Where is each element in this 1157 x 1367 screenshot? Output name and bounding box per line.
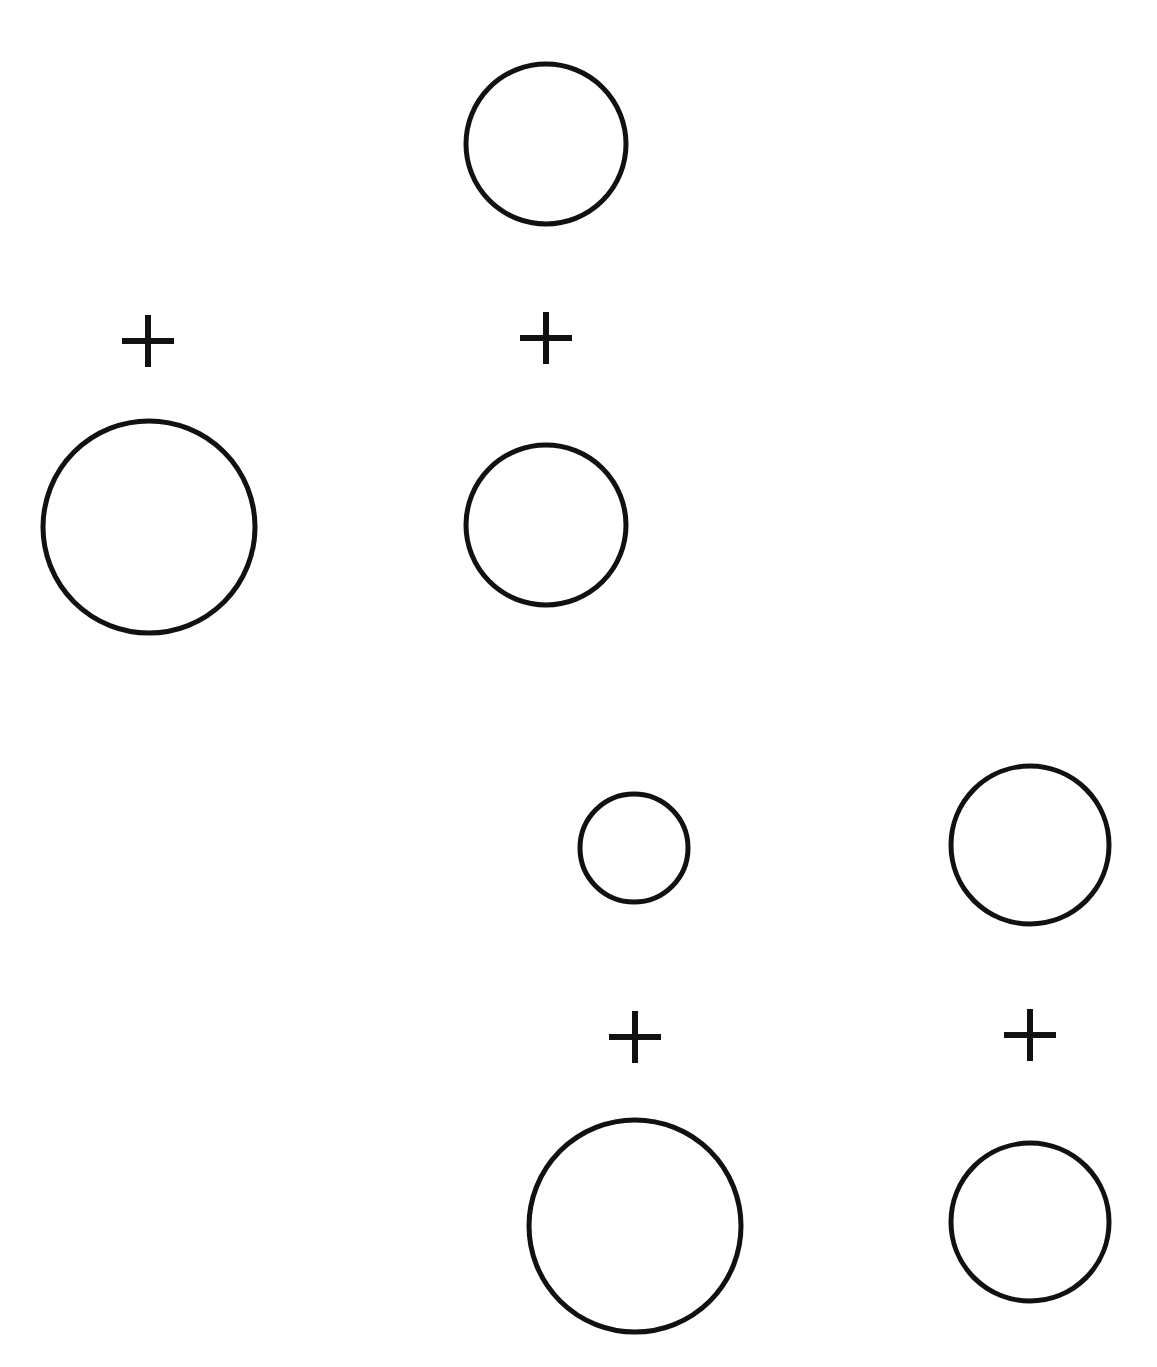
bottom-right-circle-icon bbox=[951, 1143, 1109, 1301]
plus-bottom-left-icon bbox=[609, 1011, 661, 1063]
right-upper-circle-icon bbox=[951, 766, 1109, 924]
bottom-large-circle-icon bbox=[529, 1120, 741, 1332]
left-large-circle-icon bbox=[43, 421, 255, 633]
small-circle-icon bbox=[580, 794, 688, 902]
plus-bottom-right-icon bbox=[1004, 1009, 1056, 1061]
circles-diagram bbox=[0, 0, 1157, 1367]
plus-middle-icon bbox=[520, 312, 572, 364]
plus-left-icon bbox=[122, 315, 174, 367]
middle-circle-icon bbox=[466, 445, 626, 605]
top-circle-icon bbox=[466, 64, 626, 224]
